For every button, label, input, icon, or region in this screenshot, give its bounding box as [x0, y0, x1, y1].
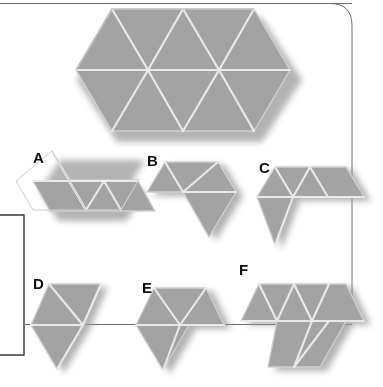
puzzle-figure: A B C D E F	[0, 0, 383, 387]
piece-f-layer[interactable]	[0, 0, 383, 387]
piece-label-a: A	[33, 150, 44, 165]
piece-label-e: E	[142, 280, 152, 295]
piece-label-f: F	[239, 262, 248, 277]
piece-label-c: C	[259, 160, 270, 175]
piece-f[interactable]	[241, 284, 364, 367]
piece-label-b: B	[147, 153, 158, 168]
piece-label-d: D	[33, 276, 44, 291]
piece-f-lower[interactable]	[268, 321, 346, 367]
